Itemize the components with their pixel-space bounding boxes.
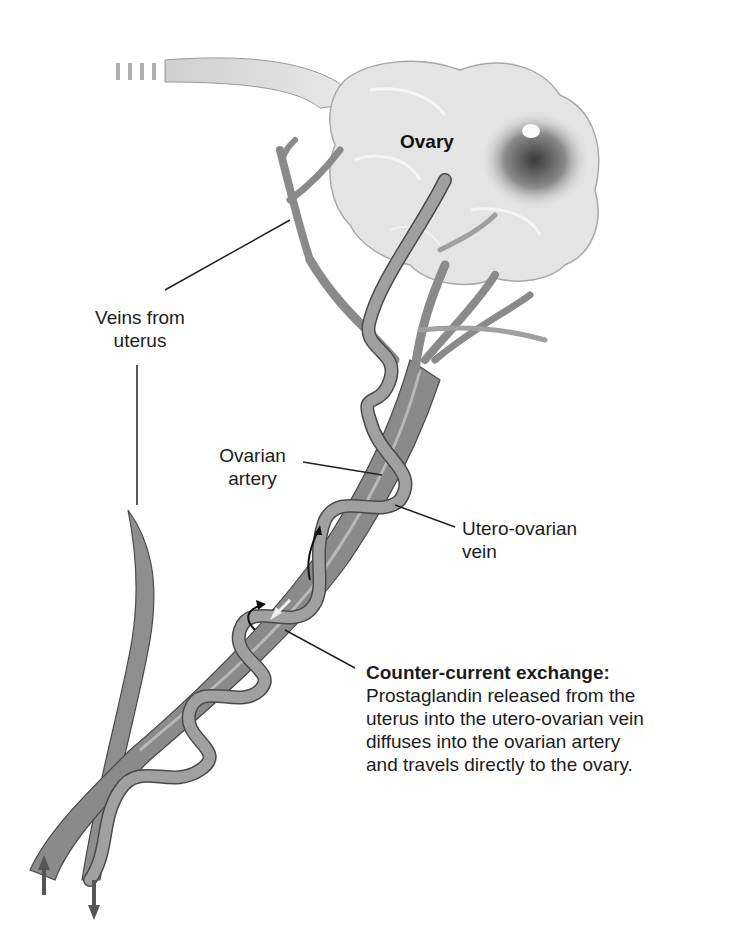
- callout-title: Counter-current exchange:: [366, 661, 644, 684]
- veins-from-uterus-label: Veins from uterus: [85, 306, 195, 352]
- ovarian-artery-line-1: Ovarian: [210, 444, 295, 467]
- callout-line-2: uterus into the utero-ovarian vein: [366, 707, 644, 730]
- ovary: [330, 61, 599, 284]
- diagram-artwork: [0, 0, 756, 945]
- ovarian-artery-line-2: artery: [210, 467, 295, 490]
- utero-ovarian-vein-line-2: vein: [462, 540, 577, 563]
- leader-veins-from-uterus: [165, 220, 290, 290]
- callout-line-1: Prostaglandin released from the: [366, 684, 644, 707]
- ovary-label: Ovary: [400, 131, 454, 153]
- veins-from-uterus-line-2: uterus: [85, 329, 195, 352]
- leader-utero-ovarian-vein: [395, 505, 455, 527]
- leader-counter-current: [285, 630, 355, 668]
- ovarian-artery-label: Ovarian artery: [210, 444, 295, 490]
- utero-ovarian-vein-label: Utero-ovarian vein: [462, 517, 577, 563]
- ovarian-ligament: [118, 58, 347, 108]
- counter-current-callout: Counter-current exchange: Prostaglandin …: [366, 661, 644, 776]
- callout-line-3: diffuses into the ovarian artery: [366, 730, 644, 753]
- veins-from-uterus-line-1: Veins from: [85, 306, 195, 329]
- veins-from-uterus-vessel: [82, 510, 154, 880]
- callout-line-4: and travels directly to the ovary.: [366, 753, 644, 776]
- utero-ovarian-vein-line-1: Utero-ovarian: [462, 517, 577, 540]
